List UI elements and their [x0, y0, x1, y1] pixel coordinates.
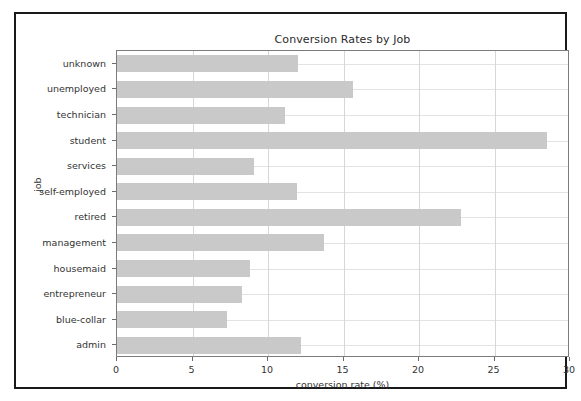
- bar: [117, 183, 297, 200]
- y-tick-label: technician: [14, 109, 106, 120]
- x-tick-mark: [192, 357, 193, 361]
- x-tick-label: 5: [188, 364, 194, 375]
- bar: [117, 81, 353, 98]
- chart-title: Conversion Rates by Job: [116, 33, 569, 46]
- bar: [117, 132, 547, 149]
- x-tick-mark: [116, 357, 117, 361]
- y-tick-mark: [112, 216, 116, 217]
- bar: [117, 234, 324, 251]
- x-tick-label: 0: [113, 364, 119, 375]
- x-tick-label: 10: [261, 364, 273, 375]
- y-tick-label: services: [14, 160, 106, 171]
- y-tick-label: admin: [14, 339, 106, 350]
- y-tick-label: unknown: [14, 57, 106, 68]
- y-tick-mark: [112, 293, 116, 294]
- x-tick-mark: [418, 357, 419, 361]
- bar: [117, 107, 285, 124]
- y-tick-mark: [112, 88, 116, 89]
- x-tick-label: 15: [336, 364, 348, 375]
- x-tick-label: 30: [563, 364, 575, 375]
- y-tick-label: retired: [14, 211, 106, 222]
- y-tick-label: self-employed: [14, 185, 106, 196]
- y-tick-mark: [112, 63, 116, 64]
- bar: [117, 260, 250, 277]
- x-tick-mark: [343, 357, 344, 361]
- y-tick-mark: [112, 165, 116, 166]
- y-tick-mark: [112, 140, 116, 141]
- figure-frame: Conversion Rates by Job adminblue-collar…: [14, 12, 567, 389]
- bar: [117, 286, 242, 303]
- bar: [117, 55, 298, 72]
- y-tick-label: unemployed: [14, 83, 106, 94]
- x-tick-mark: [267, 357, 268, 361]
- y-tick-mark: [112, 191, 116, 192]
- x-tick-label: 25: [487, 364, 499, 375]
- x-tick-mark: [494, 357, 495, 361]
- y-tick-mark: [112, 319, 116, 320]
- y-tick-mark: [112, 268, 116, 269]
- y-tick-mark: [112, 344, 116, 345]
- y-tick-label: student: [14, 134, 106, 145]
- bar-series: [117, 51, 568, 356]
- y-axis-label: job: [32, 178, 43, 192]
- bar: [117, 337, 301, 354]
- bar: [117, 209, 461, 226]
- y-tick-label: management: [14, 236, 106, 247]
- x-tick-mark: [569, 357, 570, 361]
- bar: [117, 311, 227, 328]
- y-tick-label: blue-collar: [14, 313, 106, 324]
- y-tick-mark: [112, 114, 116, 115]
- x-axis-label: conversion rate (%): [116, 379, 569, 390]
- plot-area: [116, 50, 569, 357]
- y-tick-label: housemaid: [14, 262, 106, 273]
- chart-screenshot: Conversion Rates by Job adminblue-collar…: [0, 0, 581, 401]
- bar: [117, 158, 254, 175]
- y-tick-label: entrepreneur: [14, 288, 106, 299]
- y-tick-mark: [112, 242, 116, 243]
- x-tick-label: 20: [412, 364, 424, 375]
